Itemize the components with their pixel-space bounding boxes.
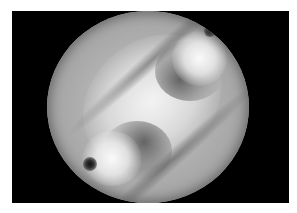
image-frame	[12, 11, 289, 203]
disk-rim	[47, 11, 249, 203]
circular-aperture	[47, 11, 249, 203]
